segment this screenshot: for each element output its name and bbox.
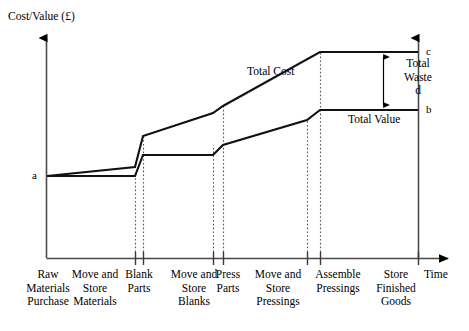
total-value-label: Total Value — [348, 113, 400, 127]
process-cost-value-chart: Cost/Value (£) a c b Total Cost Total Va… — [0, 0, 469, 331]
x-tick-label-store-finished-goods: Store Finished Goods — [360, 268, 432, 309]
level-marker-b: b — [426, 103, 432, 116]
x-axis-title: Time — [424, 268, 448, 282]
level-marker-a: a — [32, 169, 37, 182]
projection-dotted-lines — [136, 52, 321, 252]
y-axis-title: Cost/Value (£) — [8, 10, 75, 24]
total-cost-label: Total Cost — [247, 65, 294, 79]
total-waste-label: Total Waste d — [392, 57, 444, 98]
